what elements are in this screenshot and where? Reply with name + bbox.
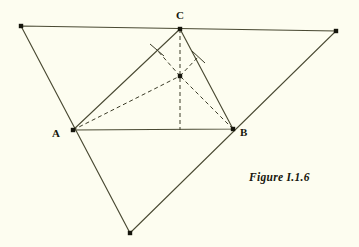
geometry-diagram [0, 0, 359, 247]
dot-vertex-b [231, 127, 235, 131]
vertex-label-c: C [176, 10, 184, 21]
dot-outer-bottom [128, 231, 132, 235]
dash-b-to-center [180, 76, 233, 129]
dot-center [178, 74, 182, 78]
dash-center-to-foot-cb [180, 57, 198, 76]
tick-on-cb [192, 51, 205, 63]
dashed-construction-lines [73, 29, 233, 130]
vertex-label-a: A [52, 128, 60, 139]
vertex-label-b: B [240, 127, 247, 138]
figure-canvas: A B C Figure I.1.6 [0, 0, 359, 247]
dot-vertex-c [178, 27, 182, 31]
dot-outer-top-right [334, 29, 338, 33]
dash-a-to-center [73, 76, 180, 130]
dash-center-to-foot-ca [157, 50, 180, 76]
dot-vertex-a [71, 128, 75, 132]
figure-caption: Figure I.1.6 [249, 171, 310, 183]
inner-triangle-abc [73, 29, 233, 130]
dot-outer-top-left [19, 24, 23, 28]
